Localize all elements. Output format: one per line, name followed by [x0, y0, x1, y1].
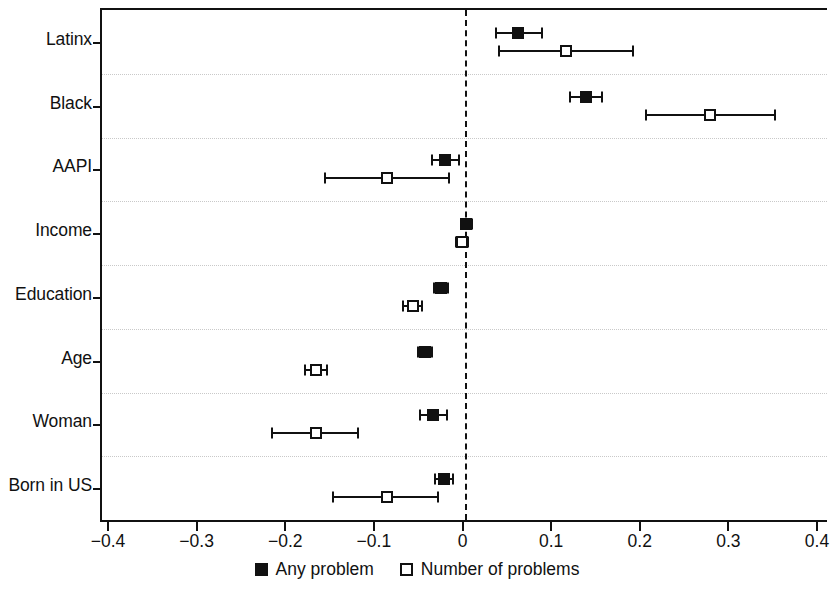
- x-axis-tick: [550, 522, 552, 531]
- point-estimate-marker: [580, 91, 592, 103]
- ci-lower-cap: [402, 300, 404, 311]
- ci-lower-cap: [332, 492, 334, 503]
- ci-upper-cap: [541, 27, 543, 38]
- point-estimate-marker: [460, 218, 472, 230]
- y-axis-tick: [93, 42, 102, 44]
- point-estimate-marker: [435, 282, 447, 294]
- x-axis-tick-label: −0.4: [91, 533, 126, 551]
- x-axis: −0.4−0.3−0.2−0.100.10.20.30.4: [100, 522, 827, 556]
- legend-hollow-square-icon: [400, 563, 413, 576]
- x-axis-tick: [727, 522, 729, 531]
- x-axis-tick: [462, 522, 464, 531]
- point-estimate-marker: [456, 236, 468, 248]
- x-axis-tick: [816, 522, 818, 531]
- plot-area: [100, 8, 827, 522]
- y-axis-label-age: Age: [61, 350, 92, 368]
- legend-filled-square-icon: [255, 563, 268, 576]
- x-axis-tick: [373, 522, 375, 531]
- ci-upper-cap: [452, 474, 454, 485]
- point-estimate-marker: [381, 491, 393, 503]
- ci-lower-cap: [419, 410, 421, 421]
- y-axis-label-woman: Woman: [33, 414, 92, 432]
- ci-lower-cap: [434, 474, 436, 485]
- legend-item: Any problem: [255, 561, 374, 579]
- point-estimate-marker: [704, 109, 716, 121]
- y-axis-tick: [93, 297, 102, 299]
- x-axis-tick-label: 0.1: [539, 533, 563, 551]
- y-axis-tick: [93, 488, 102, 490]
- x-axis-tick-label: 0.4: [805, 533, 829, 551]
- ci-lower-cap: [645, 109, 647, 120]
- zero-reference-line: [465, 10, 467, 520]
- x-axis-tick-label: 0.3: [716, 533, 740, 551]
- point-estimate-marker: [381, 172, 393, 184]
- coefficient-plot-figure: LatinxBlackAAPIIncomeEducationAgeWomanBo…: [0, 0, 834, 596]
- ci-upper-cap: [326, 364, 328, 375]
- x-axis-tick: [639, 522, 641, 531]
- ci-lower-cap: [324, 173, 326, 184]
- point-estimate-marker: [439, 154, 451, 166]
- ci-upper-cap: [458, 155, 460, 166]
- ci-upper-cap: [601, 91, 603, 102]
- legend-label: Any problem: [276, 561, 374, 579]
- x-axis-tick-label: −0.3: [179, 533, 214, 551]
- ci-lower-cap: [304, 364, 306, 375]
- x-axis-tick-label: −0.1: [357, 533, 392, 551]
- y-axis-tick: [93, 169, 102, 171]
- x-axis-tick-label: 0: [458, 533, 468, 551]
- ci-upper-cap: [446, 410, 448, 421]
- ci-lower-cap: [498, 45, 500, 56]
- ci-lower-cap: [495, 27, 497, 38]
- y-axis-tick: [93, 233, 102, 235]
- point-estimate-marker: [512, 27, 524, 39]
- x-axis-tick: [284, 522, 286, 531]
- ci-upper-cap: [431, 346, 433, 357]
- y-axis-label-born-in-us: Born in US: [8, 477, 92, 495]
- point-estimate-marker: [427, 409, 439, 421]
- point-estimate-marker: [560, 45, 572, 57]
- point-estimate-marker: [419, 346, 431, 358]
- chart-legend: Any problemNumber of problems: [0, 561, 834, 579]
- y-axis-label-aapi: AAPI: [53, 159, 92, 177]
- ci-lower-cap: [271, 428, 273, 439]
- x-axis-tick-label: 0.2: [628, 533, 652, 551]
- y-axis-label-black: Black: [50, 95, 92, 113]
- point-estimate-marker: [407, 300, 419, 312]
- ci-upper-cap: [448, 173, 450, 184]
- y-axis-tick: [93, 106, 102, 108]
- legend-label: Number of problems: [421, 561, 580, 579]
- point-estimate-marker: [310, 364, 322, 376]
- ci-upper-cap: [774, 109, 776, 120]
- y-axis-category-labels: LatinxBlackAAPIIncomeEducationAgeWomanBo…: [0, 0, 92, 596]
- ci-lower-cap: [569, 91, 571, 102]
- y-axis-label-income: Income: [35, 222, 92, 240]
- ci-upper-cap: [632, 45, 634, 56]
- ci-upper-cap: [357, 428, 359, 439]
- y-axis-tick: [93, 424, 102, 426]
- ci-lower-cap: [431, 155, 433, 166]
- y-axis-tick: [93, 361, 102, 363]
- ci-upper-cap: [421, 300, 423, 311]
- legend-item: Number of problems: [400, 561, 580, 579]
- ci-upper-cap: [437, 492, 439, 503]
- x-axis-tick-label: −0.2: [268, 533, 303, 551]
- point-estimate-marker: [438, 473, 450, 485]
- point-estimate-marker: [310, 427, 322, 439]
- y-axis-label-education: Education: [15, 286, 92, 304]
- y-axis-label-latinx: Latinx: [46, 31, 92, 49]
- x-axis-tick: [107, 522, 109, 531]
- x-axis-tick: [196, 522, 198, 531]
